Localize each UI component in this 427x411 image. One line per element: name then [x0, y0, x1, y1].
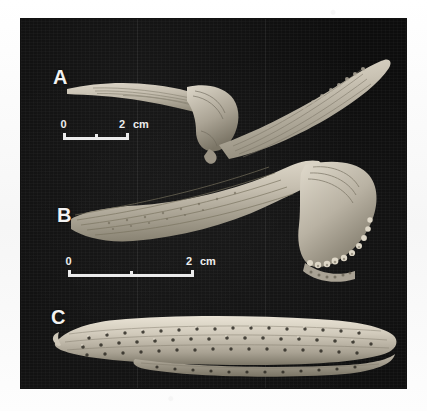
scale-bar-b-rule — [68, 270, 194, 277]
scale-bar-a-tick-0 — [63, 133, 66, 140]
figure-page: A B C 0 2 cm 0 2 cm — [0, 0, 427, 411]
scale-bar-a-tick-1 — [95, 134, 98, 140]
scale-bar-a-zero-label: 0 — [61, 118, 67, 131]
plate-grain — [21, 19, 406, 388]
scale-bar-b: 0 2 cm — [68, 255, 194, 277]
scale-bar-b-labels: 0 2 cm — [68, 255, 194, 268]
scale-bar-a-labels: 0 2 cm — [63, 118, 129, 131]
scale-bar-b-tick-0 — [68, 270, 71, 277]
scale-bar-b-max-label: 2 — [186, 255, 192, 268]
scale-bar-b-tick-1 — [130, 271, 133, 277]
specimen-c — [49, 307, 401, 383]
scale-bar-a-max-label: 2 — [119, 118, 125, 131]
specimen-a — [63, 41, 393, 171]
photo-plate: A B C 0 2 cm 0 2 cm — [21, 19, 406, 388]
scale-bar-a-rule — [63, 133, 129, 140]
panel-letter-c: C — [51, 307, 66, 327]
scale-bar-b-tick-2 — [191, 270, 194, 277]
scale-bar-a-unit-label: cm — [133, 118, 149, 131]
scan-seam-right — [265, 19, 266, 388]
panel-letter-b: B — [57, 205, 72, 225]
panel-letter-a: A — [53, 67, 68, 87]
scale-bar-b-unit-label: cm — [200, 255, 216, 268]
scale-bar-a-tick-2 — [126, 133, 129, 140]
scale-bar-b-zero-label: 0 — [66, 255, 72, 268]
scan-seam-left — [137, 19, 138, 388]
scale-bar-a: 0 2 cm — [63, 118, 129, 140]
